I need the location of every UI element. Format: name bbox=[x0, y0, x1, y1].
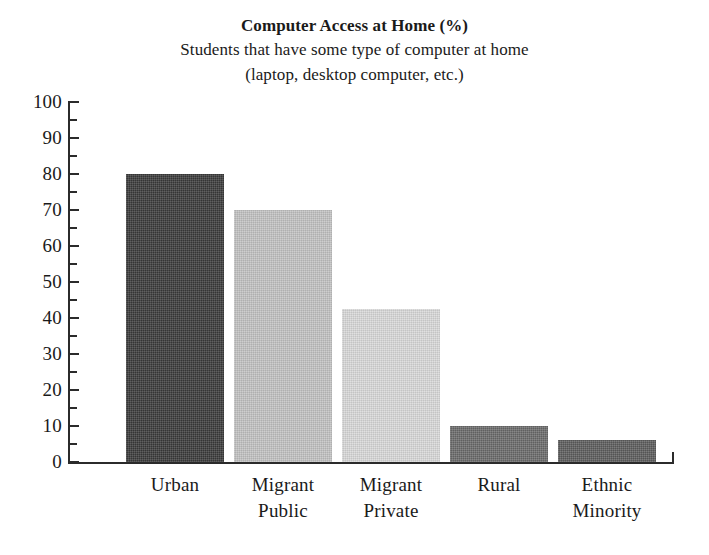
bar bbox=[450, 426, 548, 462]
x-tick-label-line: Minority bbox=[544, 498, 670, 524]
x-tick-label: EthnicMinority bbox=[544, 472, 670, 524]
bar-chart-plot: 1009080706050403020100 UrbanMigrantPubli… bbox=[0, 0, 709, 555]
x-tick-label-line: Ethnic bbox=[544, 472, 670, 498]
x-tick-label-line: Private bbox=[328, 498, 454, 524]
bar bbox=[234, 210, 332, 462]
bar bbox=[126, 174, 224, 462]
bar bbox=[558, 440, 656, 462]
bar bbox=[342, 309, 440, 462]
